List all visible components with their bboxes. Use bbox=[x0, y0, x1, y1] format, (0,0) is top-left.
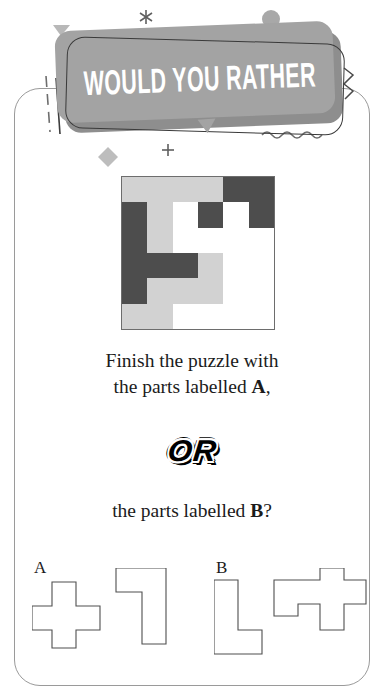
puzzle-cell-r4-c1 bbox=[147, 278, 172, 303]
question-line-1: Finish the puzzle with bbox=[28, 348, 356, 374]
header-banner: WOULD YOU RATHER bbox=[56, 26, 344, 130]
puzzle-cell-r4-c2 bbox=[173, 278, 198, 303]
puzzle-cell-r1-c4 bbox=[223, 202, 248, 227]
banner-title-text: WOULD YOU RATHER bbox=[83, 54, 317, 103]
puzzle-cell-r3-c5 bbox=[249, 253, 274, 278]
options-row: A B bbox=[0, 548, 384, 678]
puzzle-cell-r1-c1 bbox=[147, 202, 172, 227]
puzzle-cell-r2-c1 bbox=[147, 228, 172, 253]
puzzle-cell-r0-c1 bbox=[147, 177, 172, 202]
option-a-reference: A bbox=[252, 376, 266, 397]
asterisk-decor-icon bbox=[140, 10, 152, 24]
puzzle-cell-r0-c0 bbox=[122, 177, 147, 202]
question-line-3: the parts labelled B? bbox=[28, 498, 356, 524]
puzzle-cell-r2-c3 bbox=[198, 228, 223, 253]
puzzle-cell-r5-c3 bbox=[198, 304, 223, 329]
puzzle-cell-r3-c1 bbox=[147, 253, 172, 278]
angular-l-piece bbox=[116, 568, 166, 644]
puzzle-cell-r1-c5 bbox=[249, 202, 274, 227]
question-line-2-prefix: the parts labelled bbox=[113, 376, 251, 397]
puzzle-cell-r1-c3 bbox=[198, 202, 223, 227]
option-a-svg bbox=[32, 568, 172, 660]
question-line-3-suffix: ? bbox=[263, 500, 272, 521]
puzzle-grid bbox=[121, 176, 275, 330]
puzzle-cell-r1-c0 bbox=[122, 202, 147, 227]
puzzle-cell-r4-c5 bbox=[249, 278, 274, 303]
puzzle-cell-r0-c5 bbox=[249, 177, 274, 202]
question-line-2-suffix: , bbox=[266, 376, 271, 397]
puzzle-cell-r4-c4 bbox=[223, 278, 248, 303]
puzzle-cell-r0-c2 bbox=[173, 177, 198, 202]
puzzle-cell-r3-c0 bbox=[122, 253, 147, 278]
or-label: OR bbox=[166, 434, 219, 468]
puzzle-cell-r5-c0 bbox=[122, 304, 147, 329]
puzzle-cell-r4-c3 bbox=[198, 278, 223, 303]
puzzle-cell-r2-c0 bbox=[122, 228, 147, 253]
or-badge: OR bbox=[28, 434, 356, 468]
puzzle-cell-r4-c0 bbox=[122, 278, 147, 303]
option-b-shapes bbox=[214, 568, 372, 664]
puzzle-cell-r3-c3 bbox=[198, 253, 223, 278]
puzzle-cell-r5-c1 bbox=[147, 304, 172, 329]
puzzle-cell-r3-c2 bbox=[173, 253, 198, 278]
cross-piece bbox=[274, 568, 366, 630]
option-b-reference: B bbox=[250, 500, 263, 521]
puzzle-cell-r0-c3 bbox=[198, 177, 223, 202]
corner-l-piece bbox=[214, 580, 262, 654]
option-b-svg bbox=[214, 568, 372, 660]
puzzle-cell-r3-c4 bbox=[223, 253, 248, 278]
plus-cross-piece bbox=[32, 582, 100, 648]
puzzle-cell-r2-c4 bbox=[223, 228, 248, 253]
option-a-shapes bbox=[32, 568, 172, 664]
question-block: Finish the puzzle with the parts labelle… bbox=[28, 348, 356, 400]
puzzle-cell-r5-c5 bbox=[249, 304, 274, 329]
question-line-3-prefix: the parts labelled bbox=[112, 500, 250, 521]
puzzle-cell-r5-c2 bbox=[173, 304, 198, 329]
puzzle-cell-r5-c4 bbox=[223, 304, 248, 329]
banner-tail-icon bbox=[198, 118, 217, 133]
puzzle-cell-r0-c4 bbox=[223, 177, 248, 202]
question-line-2: the parts labelled A, bbox=[28, 374, 356, 400]
puzzle-cell-r2-c5 bbox=[249, 228, 274, 253]
puzzle-cell-r2-c2 bbox=[173, 228, 198, 253]
puzzle-cell-r1-c2 bbox=[173, 202, 198, 227]
